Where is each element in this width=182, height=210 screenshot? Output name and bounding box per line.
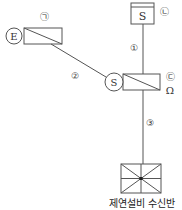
center-device-label: ㉢: [166, 72, 175, 82]
resistor-symbol: Ω: [166, 85, 174, 96]
top-device-letter: S: [139, 10, 147, 23]
left-device-letter: E: [10, 31, 17, 42]
left-device-label: ㉠: [40, 12, 49, 22]
top-device: S: [131, 3, 154, 24]
receiver-panel-caption: 제연설비 수신반: [109, 198, 175, 209]
smoke-control-wiring-diagram: S ㉡ ① E ㉠ ② S ㉢ Ω ③ 제연설비 수신반: [0, 0, 182, 210]
receiver-panel: [121, 164, 161, 193]
left-device: E: [6, 28, 62, 44]
center-device-letter: S: [111, 77, 118, 88]
wire-1-label: ①: [130, 43, 138, 53]
wire-2-label: ②: [71, 71, 79, 81]
center-device: S: [105, 73, 160, 91]
wire-3-label: ③: [146, 118, 154, 128]
top-device-label: ㉡: [160, 7, 169, 17]
